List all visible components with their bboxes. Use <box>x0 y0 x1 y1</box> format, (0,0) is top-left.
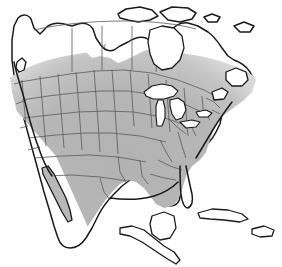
map-annotation-mark: d <box>102 42 106 50</box>
map-svg: d <box>0 0 282 267</box>
range-map: d <box>0 0 282 267</box>
lake-michigan <box>156 100 165 126</box>
